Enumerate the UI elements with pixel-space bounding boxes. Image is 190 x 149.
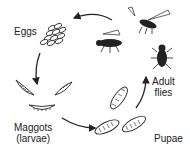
eggs-icon [39, 22, 66, 46]
adult-fly-icon [151, 45, 173, 70]
larvae-label-line2: (larvae) [14, 133, 52, 144]
adult-label: Adult flies [152, 76, 175, 98]
adult-label-line2: flies [152, 87, 175, 98]
larvae-icon [16, 80, 72, 111]
arrow-pupae-to-adult [136, 77, 146, 108]
arrow-eggs-to-larvae [36, 53, 40, 84]
larvae-label-line1: Maggots [14, 122, 52, 133]
pupae-icon [93, 84, 148, 137]
arrow-adult-to-eggs [74, 14, 112, 20]
pupae-label: Pupae [154, 133, 183, 144]
flying-fly-icon [128, 7, 170, 34]
adult-label-line1: Adult [152, 76, 175, 87]
larvae-label: Maggots (larvae) [14, 122, 52, 144]
resting-fly-icon [96, 30, 122, 53]
eggs-label: Eggs [14, 26, 37, 37]
arrow-larvae-to-pupae [62, 118, 95, 128]
